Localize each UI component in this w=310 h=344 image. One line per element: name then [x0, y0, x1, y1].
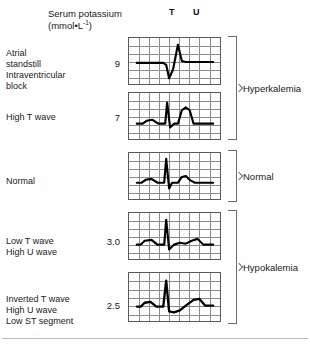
- ecg-trace-1: [129, 38, 220, 84]
- bracket-label-normal: Normal: [243, 171, 274, 182]
- units-text: (mmol•L: [48, 20, 83, 31]
- bracket-label-hyperkalemia: Hyperkalemia: [243, 83, 301, 94]
- u-wave-marker-label: U: [193, 7, 200, 17]
- row-potassium-value-1: 9: [92, 58, 120, 69]
- ecg-potassium-figure: Serum potassium (mmol•L-1) T U Atrial st…: [0, 0, 310, 344]
- row-potassium-value-2: 7: [92, 112, 120, 123]
- ecg-trace-3: [129, 153, 220, 199]
- serum-potassium-units: (mmol•L-1): [48, 20, 92, 32]
- row-description-3: Normal: [6, 176, 118, 187]
- ecg-strip-3: [128, 152, 221, 200]
- ecg-strip-1: [128, 37, 221, 85]
- ecg-strip-2: [128, 92, 221, 140]
- row-potassium-value-4: 3.0: [92, 236, 120, 247]
- ecg-strip-5: [128, 272, 221, 322]
- t-wave-marker-label: T: [169, 7, 175, 17]
- row-description-1: Atrial standstill Intraventricular block: [6, 48, 118, 92]
- footer-divider: [2, 338, 308, 339]
- units-paren: ): [89, 20, 92, 31]
- row-potassium-value-5: 2.5: [92, 300, 120, 311]
- bracket-label-hypokalemia: Hypokalemia: [243, 262, 298, 273]
- ecg-trace-4: [129, 213, 220, 259]
- ecg-strip-4: [128, 212, 221, 260]
- serum-potassium-title: Serum potassium: [48, 8, 158, 20]
- ecg-trace-5: [129, 273, 220, 321]
- ecg-trace-2: [129, 93, 220, 139]
